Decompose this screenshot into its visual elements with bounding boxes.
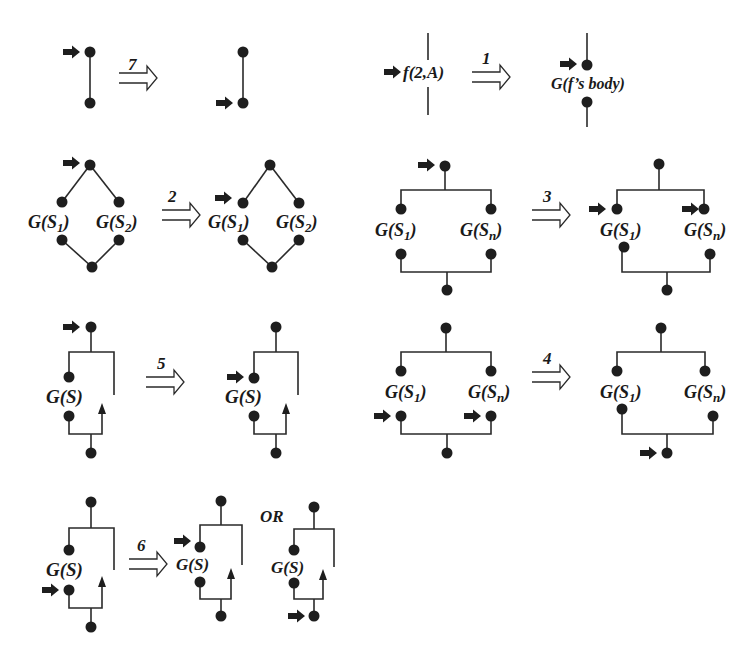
node	[294, 198, 305, 209]
subgraph-label-sn: G(Sn)	[468, 382, 510, 405]
node	[85, 160, 96, 171]
subgraph-label: G(S)	[176, 555, 209, 574]
rule-7-left	[63, 46, 96, 109]
node	[708, 411, 719, 422]
node	[86, 622, 97, 633]
node	[271, 448, 282, 459]
pointer-arrow-icon	[227, 371, 244, 384]
node	[486, 204, 497, 215]
node	[396, 204, 407, 215]
rule-7-right	[216, 47, 249, 110]
rule-4: G(S1) G(Sn) 4 G(S1) G(Sn)	[374, 323, 726, 460]
node	[216, 496, 227, 507]
subgraph-label-s1: G(S1)	[385, 382, 427, 405]
node	[238, 235, 249, 246]
node	[440, 161, 451, 172]
node	[271, 322, 282, 333]
rule-6-left: G(S)	[42, 497, 114, 633]
node	[114, 197, 125, 208]
rule-5-left: G(S)	[46, 321, 114, 459]
loop-back-arrow-icon	[227, 568, 235, 579]
rule-number: 6	[137, 536, 146, 555]
rule-3: G(S1) G(Sn) 3 G(S1) G(Sn)	[375, 159, 726, 296]
rule-4-transform-arrow: 4	[532, 349, 570, 389]
node	[617, 404, 628, 415]
node	[700, 366, 711, 377]
pointer-arrow-icon	[682, 203, 699, 216]
rule-2-left: G(S1) G(S2)	[28, 157, 138, 273]
double-arrow-icon	[532, 365, 570, 389]
node	[441, 323, 452, 334]
pointer-arrow-icon	[384, 66, 401, 79]
rule-6-transform-arrow: 6	[129, 536, 167, 576]
rule-3-right: G(S1) G(Sn)	[589, 159, 726, 296]
node	[249, 411, 260, 422]
rule-4-right: G(S1) G(Sn)	[600, 323, 726, 460]
loop-back-arrow-icon	[98, 576, 106, 587]
node	[86, 497, 97, 508]
rule-number: 2	[167, 187, 177, 206]
loop-back-arrow-icon	[319, 569, 327, 580]
node	[309, 502, 320, 513]
rule-number: 3	[542, 187, 552, 206]
node	[86, 322, 97, 333]
subgraph-label-s1: G(S1)	[208, 212, 250, 235]
node	[442, 448, 453, 459]
pointer-arrow-icon	[464, 410, 481, 423]
subgraph-label-s1: G(S1)	[600, 220, 642, 243]
rule-3-transform-arrow: 3	[532, 187, 570, 227]
pointer-arrow-icon	[560, 58, 577, 71]
rule-2-right: G(S1) G(S2)	[208, 160, 318, 273]
node	[238, 47, 249, 58]
double-arrow-icon	[162, 203, 200, 227]
node	[699, 204, 710, 215]
node	[662, 448, 673, 459]
pointer-arrow-icon	[216, 97, 233, 110]
node	[289, 545, 300, 556]
rule-6: G(S) 6 G(S) OR	[42, 496, 334, 633]
subgraph-label-sn: G(Sn)	[684, 382, 726, 405]
node	[396, 411, 407, 422]
pointer-arrow-icon	[374, 410, 391, 423]
double-arrow-icon	[119, 66, 157, 90]
node	[396, 366, 407, 377]
node	[582, 97, 593, 108]
pointer-arrow-icon	[42, 584, 59, 597]
double-arrow-icon	[472, 65, 510, 89]
node	[86, 448, 97, 459]
pointer-arrow-icon	[418, 159, 435, 172]
subgraph-label: G(S)	[46, 559, 83, 581]
node	[267, 262, 278, 273]
rule-2: G(S1) G(S2) 2 G(S1) G(S2)	[28, 157, 318, 273]
subgraph-label: G(S)	[271, 558, 304, 577]
node	[309, 611, 320, 622]
rule-7-transform-arrow: 7	[119, 55, 157, 90]
rule-2-transform-arrow: 2	[162, 187, 200, 227]
rule-5-transform-arrow: 5	[146, 354, 184, 394]
node	[612, 204, 623, 215]
pointer-arrow-icon	[174, 535, 191, 548]
rule-5-right: G(S)	[225, 322, 298, 459]
node	[57, 197, 68, 208]
node	[64, 585, 75, 596]
node	[57, 235, 68, 246]
node	[195, 577, 206, 588]
loop-back-arrow-icon	[282, 403, 290, 414]
pointer-arrow-icon	[215, 192, 232, 205]
node	[582, 60, 593, 71]
pointer-arrow-icon	[589, 203, 606, 216]
rule-4-left: G(S1) G(Sn)	[374, 323, 510, 459]
node	[85, 47, 96, 58]
node	[216, 611, 227, 622]
subgraph-label-s1: G(S1)	[28, 212, 70, 235]
rule-5: G(S) 5 G(S)	[46, 321, 298, 459]
rule-7: 7	[63, 46, 249, 110]
node	[64, 545, 75, 556]
double-arrow-icon	[532, 203, 570, 227]
node	[486, 366, 497, 377]
subgraph-label-s2: G(S2)	[96, 212, 138, 235]
rule-1-left: f(2,A)	[384, 33, 444, 115]
body-label: G(f’s body)	[551, 75, 625, 93]
node	[87, 262, 98, 273]
transformation-rules-diagram: 7 f(2,A) 1 G(f’s body)	[0, 0, 750, 663]
